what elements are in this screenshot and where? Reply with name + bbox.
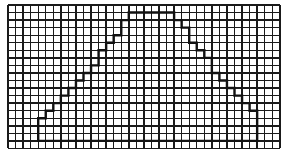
grid-diagram xyxy=(0,0,293,159)
grid-lines xyxy=(8,5,280,148)
stepped-trapezoid-outline xyxy=(38,13,257,141)
